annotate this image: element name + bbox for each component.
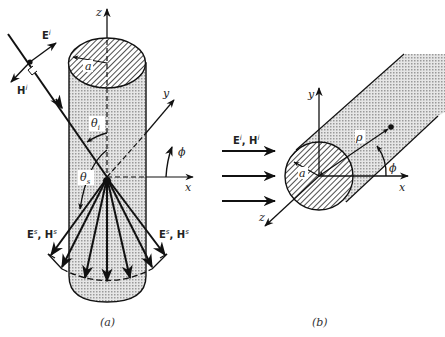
z-axis-label: z xyxy=(258,211,265,224)
caption-a: (a) xyxy=(100,316,115,329)
scattered-field-label-left: Es, Hs xyxy=(27,228,57,240)
rho-label: ρ xyxy=(355,131,363,144)
x-axis-label: x xyxy=(399,181,406,194)
incident-wave-arrows xyxy=(222,151,275,201)
scattered-rays xyxy=(51,177,165,281)
scattering-diagram: a z x y ϕ Ei Hi θi θs xyxy=(0,0,445,337)
z-axis-label: z xyxy=(95,6,102,19)
H-incident-label: Hi xyxy=(17,84,27,96)
radius-label: a xyxy=(85,60,92,73)
figure-a: a z x y ϕ Ei Hi θi θs xyxy=(8,6,193,329)
phi-label: ϕ xyxy=(389,162,397,175)
radius-label: a xyxy=(299,167,306,180)
incident-field-label: Ei, Hi xyxy=(233,134,259,146)
y-axis-label: y xyxy=(307,88,315,101)
phi-arrow xyxy=(166,147,172,177)
H-incident-arrow xyxy=(11,62,30,82)
x-axis-label: x xyxy=(185,181,192,194)
observation-point xyxy=(388,124,394,130)
y-axis-label: y xyxy=(162,87,170,100)
y-axis xyxy=(146,100,174,133)
caption-b: (b) xyxy=(312,316,328,329)
phi-label: ϕ xyxy=(178,146,186,159)
E-incident-arrow xyxy=(30,43,56,62)
scattered-field-label-right: Es, Hs xyxy=(159,228,189,240)
E-incident-label: Ei xyxy=(42,29,51,41)
figure-b: y x z a ρ ϕ Ei, Hi (b) xyxy=(222,54,445,329)
